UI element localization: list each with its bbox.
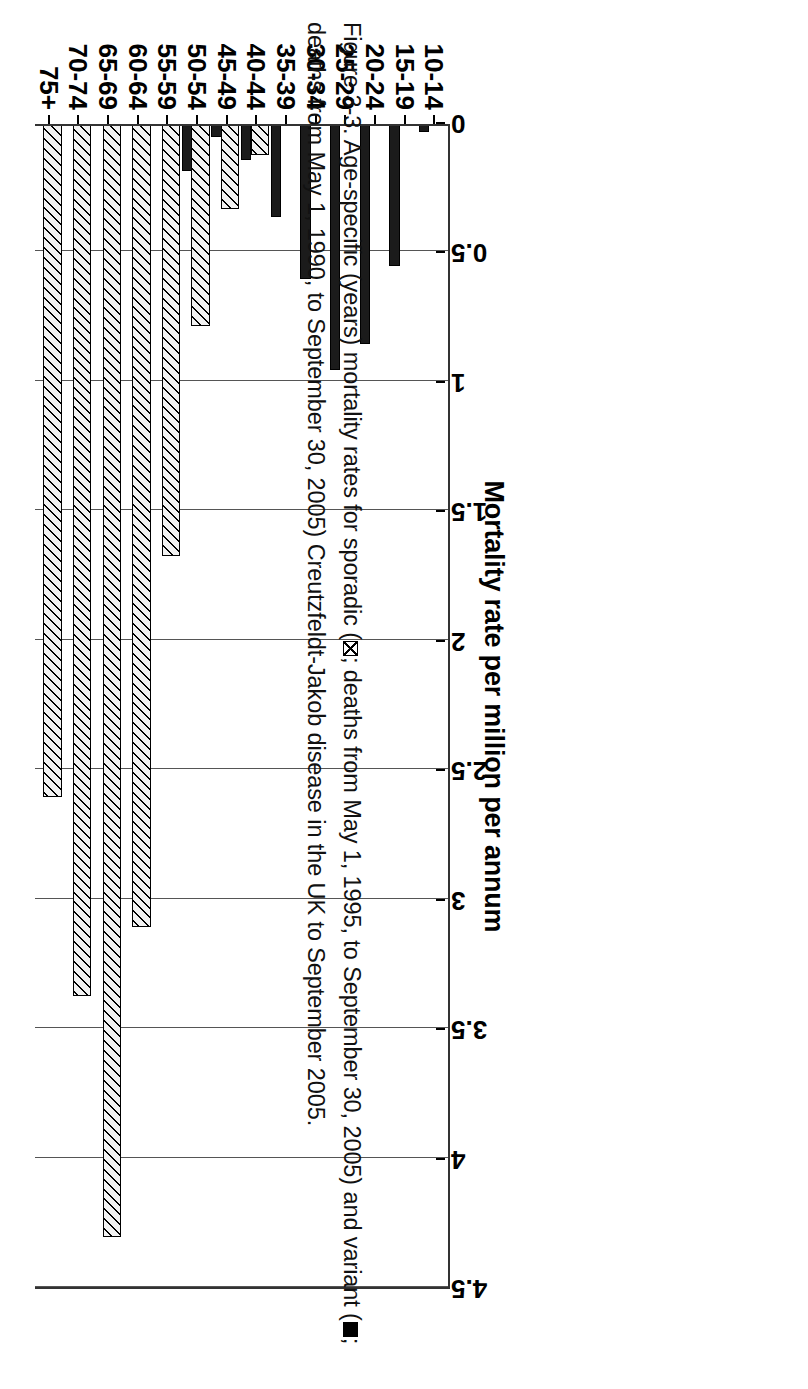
caption-text-1: Figure 3-3. Age-specific (years) mortali…	[339, 22, 365, 640]
figure-page: Mortality rate per million per annum 00.…	[0, 0, 808, 1389]
x-tick-mark	[107, 115, 109, 124]
x-tick-label-text: 60-64	[122, 44, 153, 111]
bar-sporadic	[103, 124, 121, 1237]
bar-sporadic	[191, 124, 209, 326]
x-tick-label-text: 55-59	[151, 44, 182, 111]
bar-group	[33, 124, 63, 1287]
x-tick-label-text: 70-74	[62, 44, 93, 111]
caption-block: Figure 3-3. Age-specific (years) mortali…	[268, 0, 538, 1389]
x-tick-label-text: 40-44	[240, 44, 271, 111]
bar-sporadic	[132, 124, 150, 927]
bar-group	[181, 124, 211, 1287]
x-tick-label-text: 50-54	[181, 44, 212, 111]
bar-group	[63, 124, 93, 1287]
sporadic-swatch-icon	[343, 641, 358, 656]
caption-text-2: ; deaths from May 1, 1995, to September …	[339, 657, 365, 1321]
x-tick-mark	[255, 115, 257, 124]
x-tick-mark	[226, 115, 228, 124]
x-tick-label-text: 75+	[33, 66, 64, 110]
bar-group	[152, 124, 182, 1287]
x-tick-label-text: 65-69	[92, 44, 123, 111]
x-tick-label-text: 45-49	[211, 44, 242, 111]
x-tick-mark	[196, 115, 198, 124]
bar-variant	[182, 124, 192, 171]
bar-variant	[241, 124, 251, 160]
bar-sporadic	[43, 124, 61, 797]
variant-swatch-icon	[343, 1322, 358, 1337]
x-tick-mark	[48, 115, 50, 124]
bar-group	[241, 124, 271, 1287]
bar-group	[211, 124, 241, 1287]
bar-sporadic	[73, 124, 91, 996]
bar-group	[122, 124, 152, 1287]
x-tick-mark	[166, 115, 168, 124]
x-tick-mark	[77, 115, 79, 124]
bar-sporadic	[251, 124, 269, 155]
bar-sporadic	[162, 124, 180, 556]
x-tick-mark	[137, 115, 139, 124]
bar-group	[92, 124, 122, 1287]
figure-caption: Figure 3-3. Age-specific (years) mortali…	[298, 22, 370, 1352]
bar-sporadic	[221, 124, 239, 209]
